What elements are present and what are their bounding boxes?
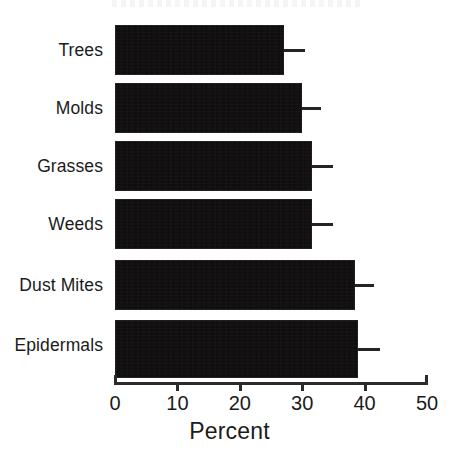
- x-axis-label-20: 20: [229, 392, 251, 415]
- error-bar-grasses: [312, 165, 334, 168]
- x-axis-line: [115, 382, 427, 385]
- x-axis-tick-0: [114, 375, 117, 385]
- category-label-weeds: Weeds: [0, 214, 103, 235]
- category-label-molds: Molds: [0, 98, 103, 119]
- bar-molds: [115, 83, 302, 133]
- x-axis-label-40: 40: [353, 392, 375, 415]
- bar-epidermals: [115, 320, 358, 378]
- x-axis-label-30: 30: [291, 392, 313, 415]
- x-axis-label-0: 0: [109, 392, 120, 415]
- bar-trees: [115, 25, 284, 75]
- error-bar-dust-mites: [355, 284, 374, 287]
- error-bar-molds: [302, 107, 321, 110]
- bar-row-dust-mites: Dust Mites: [0, 260, 459, 310]
- category-label-grasses: Grasses: [0, 156, 103, 177]
- bar-row-grasses: Grasses: [0, 141, 459, 191]
- x-axis-title: Percent: [0, 418, 459, 445]
- x-axis-tick-20: [239, 382, 242, 391]
- bar-row-molds: Molds: [0, 83, 459, 133]
- category-label-trees: Trees: [0, 40, 103, 61]
- plot-area: Trees Molds Grasses Weeds Dust Mites: [0, 0, 459, 454]
- x-axis-label-50: 50: [416, 392, 438, 415]
- x-axis-tick-40: [364, 382, 367, 391]
- x-axis-label-10: 10: [166, 392, 188, 415]
- x-axis-tick-10: [176, 382, 179, 391]
- error-bar-trees: [284, 49, 306, 52]
- x-axis-tick-30: [301, 382, 304, 391]
- bar-row-weeds: Weeds: [0, 199, 459, 249]
- bar-dust-mites: [115, 260, 355, 310]
- category-label-dust-mites: Dust Mites: [0, 275, 103, 296]
- error-bar-weeds: [312, 223, 334, 226]
- bar-row-trees: Trees: [0, 25, 459, 75]
- error-bar-epidermals: [358, 348, 380, 351]
- x-axis-tick-50: [425, 375, 428, 385]
- bar-weeds: [115, 199, 312, 249]
- category-label-epidermals: Epidermals: [0, 335, 103, 356]
- bar-grasses: [115, 141, 312, 191]
- allergen-percent-bar-chart: Trees Molds Grasses Weeds Dust Mites: [0, 0, 459, 454]
- bar-row-epidermals: Epidermals: [0, 320, 459, 370]
